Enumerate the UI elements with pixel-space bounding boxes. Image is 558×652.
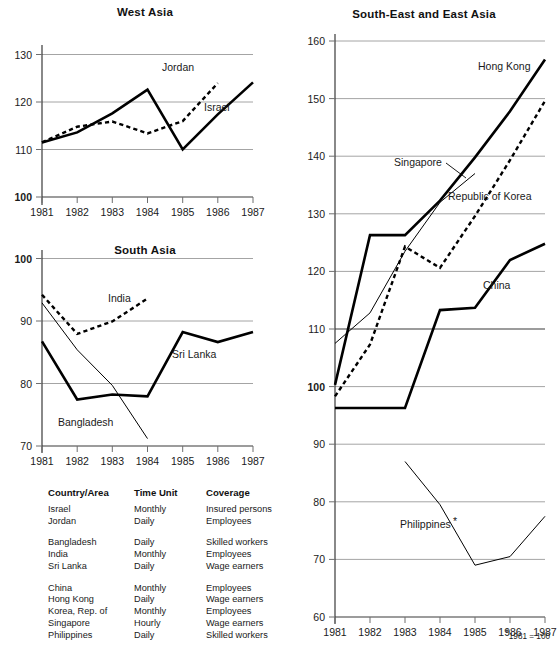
series-line-sri-lanka — [42, 332, 253, 399]
series-label-china: China — [483, 279, 511, 291]
table-row: India Monthly Employees — [48, 549, 272, 561]
y-tick-west-asia-100: 100 — [14, 191, 32, 203]
y-tick-west-asia-110: 110 — [15, 144, 32, 156]
x-tick-south-asia-1981: 1981 — [30, 455, 54, 467]
y-axis-south-asia — [36, 250, 42, 453]
x-axis-ticks-se-east-asia — [335, 617, 545, 623]
series-label-india: India — [108, 292, 131, 304]
x-tick-west-asia-1985: 1985 — [171, 206, 195, 218]
table-row: Jordan Daily Employees — [48, 516, 272, 528]
chart-title-south-asia: South Asia — [0, 244, 290, 256]
cell-coverage: Skilled workers — [206, 537, 272, 549]
table-group-spacer — [48, 528, 272, 538]
chart-panel-se-east-asia: South-East and East Asia — [290, 0, 558, 652]
cell-time-unit: Monthly — [134, 504, 206, 516]
series-label-philippines: Philippines — [400, 518, 451, 530]
y-tick-se-70: 70 — [313, 553, 325, 565]
cell-country: Israel — [48, 504, 134, 516]
cell-coverage: Employees — [206, 583, 272, 595]
series-line-philippines — [405, 462, 545, 566]
series-label-bangladesh: Bangladesh — [58, 416, 114, 428]
table-header-coverage: Coverage — [206, 487, 272, 504]
chart-title-west-asia: West Asia — [0, 6, 290, 18]
x-tick-west-asia-1987: 1987 — [241, 206, 265, 218]
cell-country: Bangladesh — [48, 537, 134, 549]
chart-panel-south-asia: South Asia 100 90 80 70 198 — [0, 232, 290, 470]
series-label-philippines-marker: * — [453, 515, 457, 527]
cell-coverage: Employees — [206, 606, 272, 618]
series-label-republic-of-korea: Republic of Korea — [448, 190, 532, 202]
x-tick-se-1983: 1983 — [393, 626, 417, 638]
table-row: Hong Kong Daily Wage earners — [48, 594, 272, 606]
cell-coverage: Wage earners — [206, 561, 272, 573]
y-tick-se-100: 100 — [307, 381, 325, 393]
chart-svg-south-asia: 100 90 80 70 1981 1982 1983 1984 1985 19… — [0, 232, 290, 470]
y-tick-west-asia-130: 130 — [14, 49, 32, 61]
chart-title-se-east-asia: South-East and East Asia — [290, 8, 558, 20]
series-label-sri-lanka: Sri Lanka — [172, 348, 217, 360]
x-tick-west-asia-1981: 1981 — [30, 206, 54, 218]
coverage-table: Country/Area Time Unit Coverage Israel M… — [48, 487, 288, 642]
table-row: Bangladesh Daily Skilled workers — [48, 537, 272, 549]
gridlines-west-asia — [42, 55, 253, 198]
cell-time-unit: Monthly — [134, 549, 206, 561]
y-tick-se-150: 150 — [307, 93, 325, 105]
x-tick-south-asia-1987: 1987 — [241, 455, 265, 467]
table-row: Singapore Hourly Wage earners — [48, 618, 272, 630]
cell-country: Hong Kong — [48, 594, 134, 606]
cell-country: Jordan — [48, 516, 134, 528]
cell-country: China — [48, 583, 134, 595]
x-tick-south-asia-1983: 1983 — [101, 455, 125, 467]
table-row: Philippines Daily Skilled workers — [48, 630, 272, 642]
chart-svg-se-east-asia: 160 150 140 130 120 110 100 90 80 70 60 … — [290, 0, 558, 652]
cell-country: Sri Lanka — [48, 561, 134, 573]
x-axis-ticks-south-asia — [42, 446, 253, 452]
coverage-table-grid: Country/Area Time Unit Coverage Israel M… — [48, 487, 272, 642]
cell-coverage: Employees — [206, 516, 272, 528]
table-row: Sri Lanka Daily Wage earners — [48, 561, 272, 573]
y-axis-west-asia — [36, 45, 42, 205]
y-tick-south-asia-90: 90 — [20, 315, 32, 327]
x-tick-west-asia-1986: 1986 — [206, 206, 230, 218]
x-tick-south-asia-1985: 1985 — [171, 455, 195, 467]
y-tick-se-140: 140 — [307, 150, 325, 162]
x-axis-ticks-west-asia — [42, 197, 253, 203]
cell-coverage: Wage earners — [206, 594, 272, 606]
cell-country: India — [48, 549, 134, 561]
cell-time-unit: Hourly — [134, 618, 206, 630]
y-tick-south-asia-70: 70 — [20, 440, 32, 452]
series-line-india — [42, 295, 148, 334]
table-header-country: Country/Area — [48, 487, 134, 504]
y-tick-se-90: 90 — [313, 438, 325, 450]
table-row: Israel Monthly Insured persons — [48, 504, 272, 516]
series-label-hong-kong: Hong Kong — [478, 60, 531, 72]
table-header-time-unit: Time Unit — [134, 487, 206, 504]
x-tick-se-1985: 1985 — [463, 626, 487, 638]
x-tick-south-asia-1984: 1984 — [136, 455, 160, 467]
gridlines-se-east-asia — [335, 41, 545, 617]
y-tick-se-120: 120 — [307, 265, 325, 277]
cell-time-unit: Daily — [134, 561, 206, 573]
table-row: Korea, Rep. of Monthly Employees — [48, 606, 272, 618]
cell-time-unit: Daily — [134, 630, 206, 642]
cell-coverage: Skilled workers — [206, 630, 272, 642]
series-line-jordan — [42, 83, 218, 142]
y-tick-se-80: 80 — [313, 496, 325, 508]
y-tick-south-asia-80: 80 — [20, 378, 32, 390]
series-label-israel: Israel — [204, 101, 230, 113]
x-tick-se-1982: 1982 — [358, 626, 382, 638]
cell-time-unit: Daily — [134, 594, 206, 606]
chart-svg-west-asia: 100 110 120 130 1981 1982 1983 1984 1985… — [0, 0, 290, 232]
cell-time-unit: Daily — [134, 537, 206, 549]
y-tick-se-60: 60 — [313, 611, 325, 623]
x-tick-se-1981: 1981 — [323, 626, 347, 638]
cell-country: Philippines — [48, 630, 134, 642]
cell-coverage: Employees — [206, 549, 272, 561]
y-tick-se-160: 160 — [307, 35, 325, 47]
x-tick-south-asia-1982: 1982 — [66, 455, 90, 467]
cell-time-unit: Monthly — [134, 606, 206, 618]
cell-coverage: Wage earners — [206, 618, 272, 630]
x-tick-se-1984: 1984 — [428, 626, 452, 638]
x-tick-west-asia-1982: 1982 — [66, 206, 90, 218]
y-tick-se-130: 130 — [307, 208, 325, 220]
